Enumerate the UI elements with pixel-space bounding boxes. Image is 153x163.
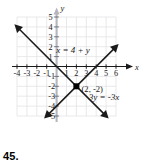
x-tick-label: 4 bbox=[94, 69, 98, 78]
x-tick-label: 2 bbox=[74, 69, 78, 78]
y-tick-label: 5 bbox=[49, 13, 53, 22]
x-tick-label: 5 bbox=[104, 69, 108, 78]
figure-number: 45. bbox=[3, 150, 19, 162]
x-tick-label: -4 bbox=[14, 69, 21, 78]
x-tick-label: 6 bbox=[114, 69, 118, 78]
x-tick-label: -2 bbox=[33, 69, 40, 78]
coordinate-plane: 5 4 3 2 1 -1 -2 -3 -4 -5 -4 -3 -2 -1 1 2… bbox=[0, 0, 153, 145]
y-axis-label: y bbox=[60, 3, 65, 13]
intersection-point-label: (2, -2) bbox=[82, 84, 104, 94]
x-axis-label: x bbox=[134, 62, 139, 72]
y-tick-label: 3 bbox=[49, 33, 53, 42]
y-tick-label: -3 bbox=[48, 92, 55, 101]
graph-figure: 5 4 3 2 1 -1 -2 -3 -4 -5 -4 -3 -2 -1 1 2… bbox=[0, 0, 153, 163]
intersection-point-marker bbox=[73, 83, 79, 89]
x-tick-label: -1 bbox=[43, 69, 50, 78]
equation-label-line1: x = 4 + y bbox=[55, 45, 90, 55]
y-tick-label: 2 bbox=[49, 43, 53, 52]
y-tick-label: -2 bbox=[48, 82, 55, 91]
line-x-equals-4-plus-y bbox=[44, 44, 119, 119]
x-tick-label: -3 bbox=[23, 69, 30, 78]
y-tick-label: 4 bbox=[49, 23, 53, 32]
